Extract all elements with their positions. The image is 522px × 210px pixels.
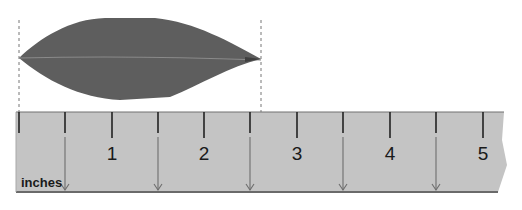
ruler (16, 112, 507, 192)
ruler-label-1: 1 (107, 143, 118, 165)
ruler-label-4: 4 (385, 143, 396, 165)
ruler-label-3: 3 (292, 143, 303, 165)
ruler-label-2: 2 (199, 143, 210, 165)
leaf-ruler-diagram: 1 2 3 4 5 inches (0, 0, 522, 210)
units-label: inches (21, 175, 62, 190)
leaf-illustration (19, 18, 261, 100)
ruler-label-5: 5 (478, 143, 489, 165)
diagram-canvas (0, 0, 522, 210)
